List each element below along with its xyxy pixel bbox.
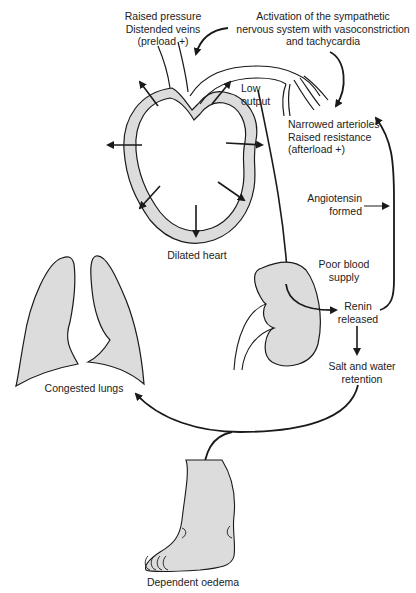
lungs-icon <box>16 256 144 386</box>
angiotensin-label: Angiotensin formed <box>300 192 362 217</box>
poor-blood-supply-label: Poor blood supply <box>312 258 376 283</box>
salt-water-retention-label: Salt and water retention <box>320 360 404 385</box>
dilated-heart-label: Dilated heart <box>156 249 238 262</box>
dependent-oedema-label: Dependent oedema <box>140 576 246 589</box>
low-output-label: Low output <box>241 82 270 107</box>
retention-to-lungs-arrow <box>136 385 358 432</box>
renin-released-label: Renin released <box>330 300 386 325</box>
low-output-arrow <box>258 90 288 285</box>
heart-failure-diagram: Raised pressure Distended veins (preload… <box>0 0 416 593</box>
kidney-icon <box>234 262 320 370</box>
vein-icon <box>158 42 188 92</box>
sympathetic-to-arterioles-arrow <box>330 52 344 106</box>
raised-pressure-label: Raised pressure Distended veins (preload… <box>112 10 214 48</box>
dilated-heart-icon <box>124 88 257 243</box>
diagram-artwork <box>0 0 416 593</box>
narrowed-arterioles-label: Narrowed arterioles Raised resistance (a… <box>288 118 380 156</box>
sympathetic-activation-label: Activation of the sympathetic nervous sy… <box>230 10 416 48</box>
congested-lungs-label: Congested lungs <box>36 382 132 395</box>
swollen-foot-icon <box>145 460 234 572</box>
